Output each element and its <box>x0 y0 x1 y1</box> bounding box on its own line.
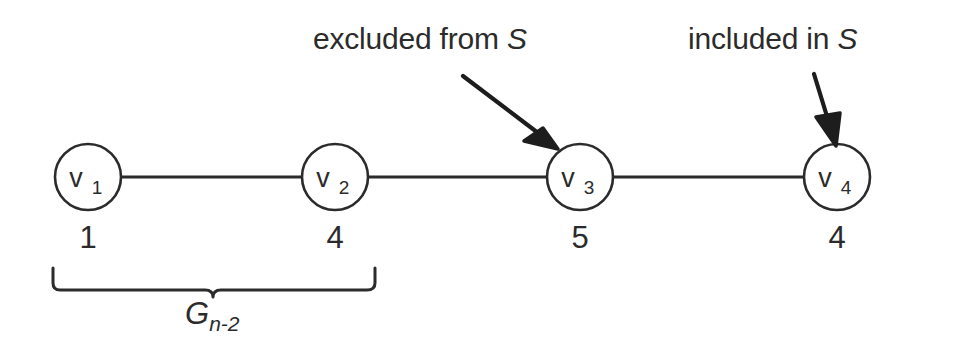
node-subscript-v3: 3 <box>584 177 595 198</box>
diagram-canvas: excluded from S included in S v 1 v 2 v … <box>0 0 972 364</box>
arrow-to-v4-icon <box>814 74 840 146</box>
arrow-to-v3-head <box>524 128 558 149</box>
subgraph-brace-label: Gn-2 <box>185 296 239 332</box>
graph-node-v4[interactable]: v 4 <box>804 144 870 210</box>
weight-label-v2: 4 <box>326 220 343 255</box>
node-circle-v1 <box>55 144 121 210</box>
arrow-to-v4-head <box>816 113 840 146</box>
graph-node-v1[interactable]: v 1 <box>55 144 121 210</box>
node-label-v1: v <box>69 163 83 193</box>
underbrace-path <box>53 268 375 297</box>
node-subscript-v1: 1 <box>92 177 103 198</box>
subgraph-label-base: G <box>185 296 209 331</box>
graph-vector-layer: v 1 v 2 v 3 v 4 1 4 5 4 <box>0 0 972 364</box>
graph-node-v3[interactable]: v 3 <box>547 144 613 210</box>
node-circle-v2 <box>302 144 368 210</box>
subgraph-underbrace <box>53 268 375 297</box>
weight-label-v3: 5 <box>571 220 588 255</box>
node-circle-v3 <box>547 144 613 210</box>
subgraph-label-subscript: n-2 <box>209 312 239 335</box>
weight-label-v4: 4 <box>828 220 845 255</box>
graph-node-v2[interactable]: v 2 <box>302 144 368 210</box>
weight-label-v1: 1 <box>79 220 96 255</box>
node-label-v4: v <box>818 163 832 193</box>
node-subscript-v4: 4 <box>841 177 852 198</box>
node-subscript-v2: 2 <box>339 177 350 198</box>
arrow-to-v3-icon <box>463 76 558 149</box>
node-label-v3: v <box>561 163 575 193</box>
node-weights: 1 4 5 4 <box>79 220 845 255</box>
node-label-v2: v <box>316 163 330 193</box>
node-circle-v4 <box>804 144 870 210</box>
